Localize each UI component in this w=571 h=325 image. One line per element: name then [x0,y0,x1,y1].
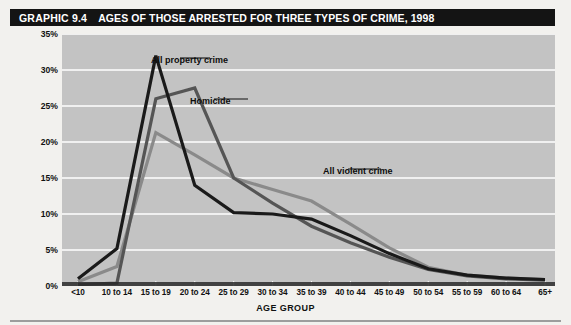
y-tick-label: 5% [18,245,58,255]
plot-area [62,34,555,286]
x-axis-ticks: <1010 to 1415 to 1920 to 2425 to 2930 to… [62,288,555,302]
series-line-homicide [78,88,545,285]
x-tick-label: 15 to 19 [141,288,171,297]
x-tick-label: 40 to 44 [335,288,365,297]
x-tick-label: <10 [71,288,85,297]
page-title: AGES OF THOSE ARRESTED FOR THREE TYPES O… [98,12,434,24]
y-tick-label: 10% [18,209,58,219]
x-tick-label: 30 to 34 [258,288,288,297]
y-tick-label: 15% [18,173,58,183]
annotation-all-property-crime: All property crime [151,55,228,65]
y-tick-label: 0% [18,281,58,291]
x-tick-label: 65+ [538,288,552,297]
x-tick-label: 50 to 54 [413,288,443,297]
x-tick-label: 25 to 29 [219,288,249,297]
x-axis-title: AGE GROUP [0,303,571,313]
series-line-all-property-crime [78,56,545,280]
annotation-homicide: Homicide [190,96,231,106]
y-tick-label: 30% [18,65,58,75]
y-tick-label: 35% [18,29,58,39]
x-tick-label: 20 to 24 [180,288,210,297]
x-tick-label: 10 to 14 [102,288,132,297]
y-tick-label: 20% [18,137,58,147]
series-line-all-violent-crime [78,133,545,282]
x-tick-label: 45 to 49 [374,288,404,297]
graphic-title-bar: GRAPHIC 9.4 AGES OF THOSE ARRESTED FOR T… [10,9,555,26]
x-tick-label: 55 to 59 [452,288,482,297]
x-tick-label: 60 to 64 [491,288,521,297]
graphic-number: GRAPHIC 9.4 [19,12,87,24]
y-tick-label: 25% [18,101,58,111]
baseline-shadow [62,282,555,286]
y-axis-ticks: 0%5%10%15%20%25%30%35% [14,34,58,286]
x-tick-label: 35 to 39 [296,288,326,297]
graphic-figure: GRAPHIC 9.4 AGES OF THOSE ARRESTED FOR T… [0,0,571,325]
annotation-all-violent-crime: All violent crime [323,166,393,176]
chart-svg [62,34,555,286]
bottom-divider [10,320,561,322]
